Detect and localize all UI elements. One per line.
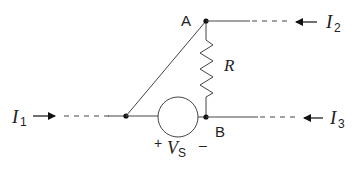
current-i1-label: I [11,106,20,127]
voltage-source [158,97,198,137]
current-i3-label: I [329,107,338,128]
node-b-label: B [215,123,225,140]
current-i1-subscript: 1 [20,115,27,129]
source-plus-sign: + [154,135,162,151]
circuit-diagram: A B R I 1 I 2 I 3 + V S – [0,0,355,169]
resistor [200,21,213,117]
source-label-subscript: S [178,146,186,160]
current-i2-subscript: 2 [334,21,341,35]
node-a-label: A [181,12,191,29]
source-minus-sign: – [199,137,207,153]
wire-left-to-a [126,21,206,116]
current-i3-subscript: 3 [338,117,345,131]
resistor-label: R [223,56,235,75]
current-i2-label: I [325,11,334,32]
